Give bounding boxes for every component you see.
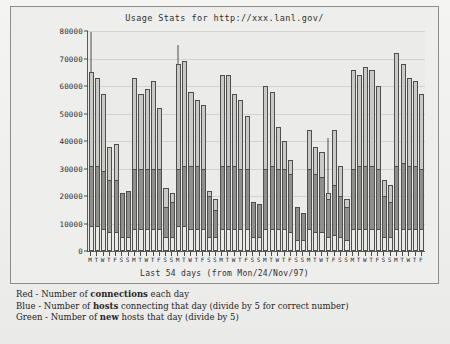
bar-new_hosts: [263, 229, 268, 251]
x-tick-label: S: [251, 256, 255, 263]
y-tick-label: 50000: [59, 109, 88, 118]
bar-new_hosts: [201, 229, 206, 251]
x-tick-label: T: [182, 256, 186, 263]
bar-new_hosts: [382, 237, 387, 251]
x-tick-label: S: [169, 256, 173, 263]
bar-new_hosts: [107, 232, 112, 251]
bar-group: [163, 31, 168, 251]
x-tick-label: F: [113, 256, 117, 263]
bar-group: [388, 31, 393, 251]
bar-new_hosts: [220, 229, 225, 251]
x-tick-label: S: [163, 256, 167, 263]
x-tick-label: S: [300, 256, 304, 263]
bar-new_hosts: [313, 232, 318, 251]
bar-group: [195, 31, 200, 251]
bar-new_hosts: [207, 237, 212, 251]
bar-new_hosts: [338, 237, 343, 251]
legend-item-hosts: Blue - Number of hosts connecting that d…: [16, 301, 436, 313]
x-tick-label: T: [226, 256, 230, 263]
legend-hosts-emphasis: hosts: [93, 301, 118, 311]
chart-title: Usage Stats for http://xxx.lanl.gov/: [11, 13, 438, 23]
y-tick-label: 60000: [59, 82, 88, 91]
bar-group: [238, 31, 243, 251]
x-axis: MTWTFSSMTWTFSSMTWTFSSMTWTFSSMTWTFSSMTWTF…: [87, 252, 425, 268]
x-tick-label: W: [188, 256, 192, 263]
x-tick-label: S: [382, 256, 386, 263]
x-tick-label: T: [357, 256, 361, 263]
legend-newhosts-suffix: hosts that day (divide by 5): [119, 312, 239, 322]
y-tick-label: 30000: [59, 164, 88, 173]
bar-new_hosts: [95, 226, 100, 251]
bar-new_hosts: [295, 240, 300, 251]
bar-group: [232, 31, 237, 251]
bar-new_hosts: [332, 235, 337, 252]
bar-new_hosts: [213, 237, 218, 251]
x-tick-label: M: [176, 256, 180, 263]
bar-group: [145, 31, 150, 251]
bar-group: [132, 31, 137, 251]
x-tick-label: T: [95, 256, 99, 263]
bar-overflow-spike: [91, 32, 92, 72]
x-axis-title: Last 54 days (from Mon/24/Nov/97): [11, 269, 438, 278]
bar-group: [201, 31, 206, 251]
x-tick-label: M: [394, 256, 398, 263]
bar-group: [295, 31, 300, 251]
x-tick-label: W: [319, 256, 323, 263]
x-tick-label: S: [213, 256, 217, 263]
bar-group: [207, 31, 212, 251]
bar-new_hosts: [301, 240, 306, 251]
bar-group: [332, 31, 337, 251]
bar-new_hosts: [288, 232, 293, 251]
bar-group: [351, 31, 356, 251]
bar-new_hosts: [176, 226, 181, 251]
bar-group: [107, 31, 112, 251]
x-tick-label: M: [307, 256, 311, 263]
bar-group: [270, 31, 275, 251]
bar-new_hosts: [388, 237, 393, 251]
bar-new_hosts: [138, 229, 143, 251]
bar-new_hosts: [151, 229, 156, 251]
chart-legend: Red - Number of connections each day Blu…: [16, 289, 436, 324]
bar-new_hosts: [282, 229, 287, 251]
bar-group: [226, 31, 231, 251]
bar-new_hosts: [132, 229, 137, 251]
x-tick-label: M: [88, 256, 92, 263]
bar-group: [344, 31, 349, 251]
bar-new_hosts: [270, 229, 275, 251]
bar-new_hosts: [376, 229, 381, 251]
bar-group: [326, 31, 331, 251]
x-tick-label: T: [138, 256, 142, 263]
bar-group: [369, 31, 374, 251]
x-tick-label: T: [413, 256, 417, 263]
bar-new_hosts: [251, 237, 256, 251]
bar-group: [114, 31, 119, 251]
bar-group: [319, 31, 324, 251]
x-tick-label: F: [332, 256, 336, 263]
bar-group: [101, 31, 106, 251]
legend-connections-prefix: Red - Number of: [16, 289, 90, 299]
legend-newhosts-emphasis: new: [100, 312, 119, 322]
bar-new_hosts: [101, 229, 106, 251]
x-tick-label: W: [232, 256, 236, 263]
bar-new_hosts: [120, 237, 125, 251]
x-tick-label: F: [244, 256, 248, 263]
x-tick-label: T: [325, 256, 329, 263]
bar-group: [151, 31, 156, 251]
x-tick-label: W: [144, 256, 148, 263]
bar-new_hosts: [326, 237, 331, 251]
bar-group: [363, 31, 368, 251]
bar-group: [263, 31, 268, 251]
x-tick-label: T: [151, 256, 155, 263]
x-tick-label: S: [257, 256, 261, 263]
bar-new_hosts: [145, 229, 150, 251]
x-tick-label: S: [344, 256, 348, 263]
plot-area: 0100002000030000400005000060000700008000…: [87, 31, 425, 252]
x-tick-label: T: [238, 256, 242, 263]
bar-new_hosts: [89, 226, 94, 251]
x-tick-label: M: [132, 256, 136, 263]
x-tick-label: S: [294, 256, 298, 263]
bar-new_hosts: [126, 237, 131, 251]
bar-group: [407, 31, 412, 251]
x-tick-label: S: [338, 256, 342, 263]
bar-new_hosts: [394, 229, 399, 251]
